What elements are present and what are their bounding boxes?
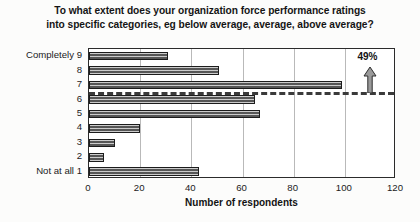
chart-title-line-1: To what extent does your organization fo… (28, 4, 392, 18)
y-axis-tick-8: 8 (2, 65, 82, 75)
x-axis-tick-80: 80 (273, 182, 313, 193)
y-axis-tick-3: 3 (2, 137, 82, 147)
x-axis-tick-0: 0 (68, 182, 108, 193)
bar-category-6 (89, 95, 255, 104)
bar-category-7 (89, 81, 342, 90)
reference-line (89, 92, 394, 95)
bar-row (89, 165, 396, 179)
bar-category-4 (89, 124, 140, 133)
bar-row (89, 63, 396, 77)
annotation-49-percent: 49% (357, 51, 377, 62)
bar-row (89, 107, 396, 121)
x-axis-tick-100: 100 (324, 182, 364, 193)
y-axis-tick-7: 7 (2, 79, 82, 89)
x-axis-tick-60: 60 (222, 182, 262, 193)
y-axis-tick-6: 6 (2, 94, 82, 104)
bar-category-1 (89, 167, 199, 176)
y-axis-anchor-not-at-all: Not at all (0, 166, 74, 176)
x-axis-tick-20: 20 (119, 182, 159, 193)
x-axis-label: Number of respondents (88, 197, 395, 208)
bar-category-5 (89, 110, 260, 119)
plot-area (88, 48, 395, 178)
y-axis-tick-4: 4 (2, 122, 82, 132)
bar-row (89, 136, 396, 150)
bar-row (89, 150, 396, 164)
chart-title: To what extent does your organization fo… (28, 4, 392, 31)
bar-category-8 (89, 66, 219, 75)
bar-row (89, 78, 396, 92)
bar-row (89, 49, 396, 63)
bar-category-2 (89, 153, 104, 162)
y-axis-anchor-completely: Completely (0, 50, 74, 60)
chart-title-line-2: into specific categories, eg below avera… (28, 18, 392, 32)
callout-arrow-icon (363, 67, 377, 93)
bar-row (89, 121, 396, 135)
x-axis-tick-120: 120 (375, 182, 415, 193)
bar-category-9 (89, 52, 168, 61)
chart-figure: To what extent does your organization fo… (0, 0, 420, 222)
y-axis-tick-2: 2 (2, 151, 82, 161)
bar-category-3 (89, 139, 115, 148)
x-axis-tick-40: 40 (170, 182, 210, 193)
y-axis-tick-5: 5 (2, 108, 82, 118)
